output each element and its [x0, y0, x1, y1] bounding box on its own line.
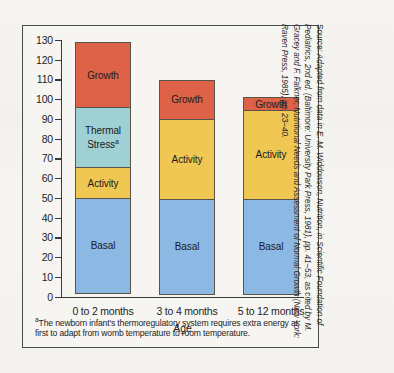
bar-segment-label: Basal: [175, 241, 200, 252]
y-tick-label: 30: [42, 231, 53, 243]
bar-segment[interactable]: Growth: [75, 42, 131, 108]
y-tick-mark: [55, 60, 61, 61]
y-tick-label: 60: [42, 172, 53, 184]
y-tick-mark: [55, 297, 61, 298]
bar-segment-label: Basal: [91, 240, 116, 251]
bar-segment-label: Growth: [171, 94, 203, 105]
y-tick-label: 20: [42, 251, 53, 263]
stacked-bar[interactable]: GrowthActivityBasal: [159, 80, 215, 297]
segment-footnote-marker: a: [115, 138, 119, 145]
bar-segment-label: Growth: [87, 70, 119, 81]
bar-segment-label: Activity: [172, 154, 203, 165]
y-tick-mark: [55, 119, 61, 120]
y-tick-mark: [55, 139, 61, 140]
y-tick-mark: [55, 99, 61, 100]
y-tick-mark: [55, 277, 61, 278]
y-tick-mark: [55, 178, 61, 179]
y-axis-line: [61, 40, 62, 298]
y-tick-mark: [55, 40, 61, 41]
bar-segment[interactable]: Growth: [159, 80, 215, 120]
y-tick-label: 120: [36, 54, 53, 66]
y-tick-label: 110: [37, 73, 53, 85]
bar-segment[interactable]: Activity: [159, 119, 215, 200]
bar-segment[interactable]: Basal: [75, 198, 131, 294]
y-tick-mark: [55, 218, 61, 219]
y-tick-label: 90: [42, 113, 53, 125]
footnote-text: The newborn infant's thermoregulatory sy…: [35, 318, 298, 339]
y-tick-mark: [55, 257, 61, 258]
y-tick-label: 0: [47, 291, 53, 303]
bar-segment[interactable]: Activity: [75, 167, 131, 199]
bar-segment-label: Thermal Stressa: [85, 125, 121, 150]
y-tick-label: 10: [42, 271, 53, 283]
bar-segment[interactable]: Basal: [159, 199, 215, 295]
source-credit: Source: Adapted from data in E. M. Widdo…: [263, 24, 325, 349]
bar-segment-label: Activity: [88, 178, 119, 189]
y-tick-mark: [55, 79, 61, 80]
y-tick-label: 100: [36, 93, 53, 105]
stacked-bar[interactable]: GrowthThermal StressaActivityBasal: [75, 42, 131, 297]
y-tick-label: 130: [36, 34, 53, 46]
y-tick-mark: [55, 198, 61, 199]
y-tick-label: 70: [42, 152, 53, 164]
bar-segment[interactable]: Thermal Stressa: [75, 107, 131, 168]
y-tick-label: 50: [42, 192, 53, 204]
y-tick-mark: [55, 158, 61, 159]
y-tick-mark: [55, 237, 61, 238]
source-text: Adapted from data in E. M. Widdowson, Nu…: [280, 24, 324, 338]
source-label: Source:: [315, 24, 324, 52]
y-tick-label: 80: [42, 133, 53, 145]
y-tick-label: 40: [42, 212, 53, 224]
